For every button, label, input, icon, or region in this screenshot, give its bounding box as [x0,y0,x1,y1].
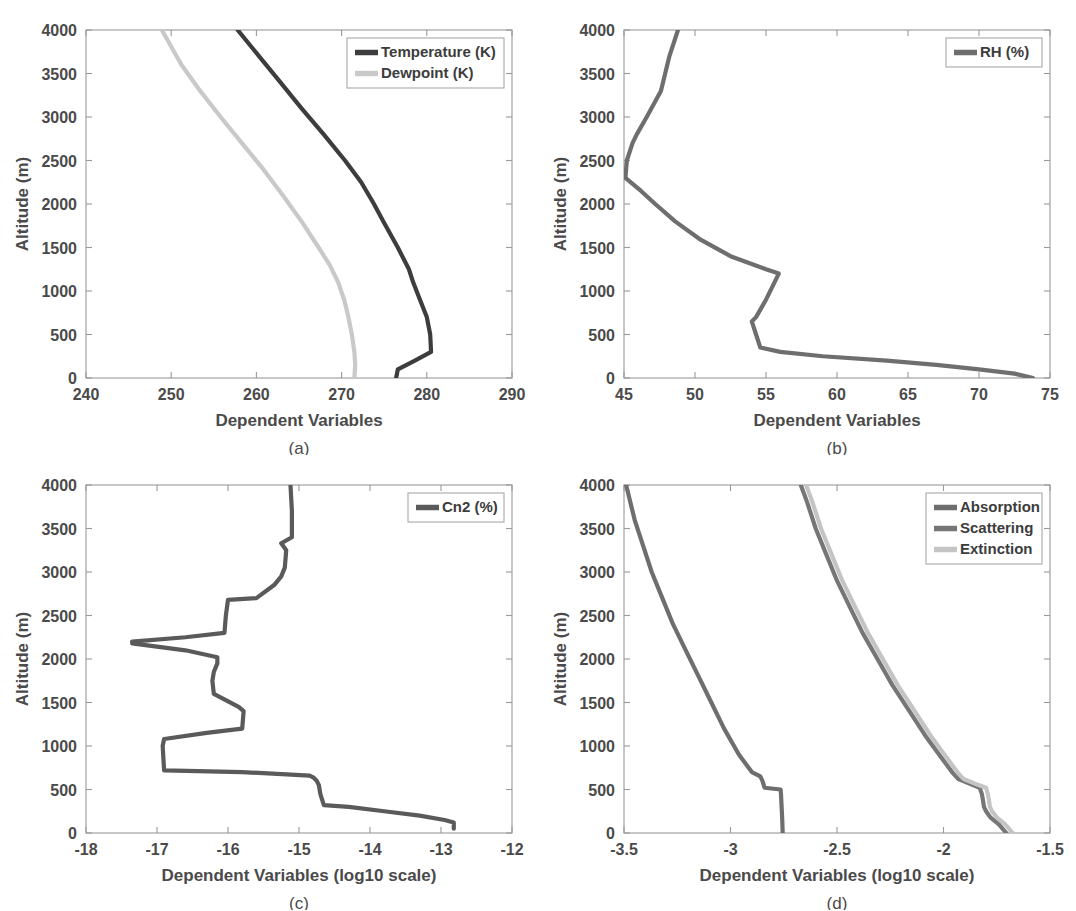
y-tick-label: 2500 [41,153,77,170]
series-line [626,485,783,833]
x-tick-label: 65 [899,386,917,403]
x-tick-label: -2.5 [823,841,851,858]
y-tick-label: 4000 [41,477,77,494]
plot-frame [624,30,1050,378]
legend-label: Temperature (K) [381,43,496,60]
y-tick-label: 1500 [579,240,615,257]
panel-b-plot: 0500100015002000250030003500400045505560… [538,0,1076,455]
x-tick-label: -15 [287,841,310,858]
panel-a-plot: 0500100015002000250030003500400024025026… [0,0,538,455]
series-group [625,30,1033,378]
panel-c-plot: 05001000150020002500300035004000-18-17-1… [0,455,538,910]
y-tick-label: 1000 [579,738,615,755]
x-tick-label: 60 [828,386,846,403]
plot-frame [86,485,512,833]
x-axis-title: Dependent Variables [753,411,920,430]
panel-caption: (d) [827,894,848,910]
x-tick-label: -1.5 [1036,841,1064,858]
y-tick-label: 0 [606,825,615,842]
y-tick-label: 3000 [579,109,615,126]
y-tick-label: 2000 [41,196,77,213]
y-axis-title: Altitude (m) [551,612,570,706]
figure-atmospheric-profiles: 0500100015002000250030003500400024025026… [0,0,1076,911]
x-axis-title: Dependent Variables (log10 scale) [700,866,975,885]
series-line [162,30,355,378]
y-tick-label: 3500 [579,521,615,538]
x-tick-label: 240 [73,386,100,403]
x-tick-label: 50 [686,386,704,403]
x-tick-label: 70 [970,386,988,403]
x-tick-label: 55 [757,386,775,403]
legend-label: RH (%) [980,43,1029,60]
y-tick-label: 4000 [579,22,615,39]
y-tick-label: 1500 [579,695,615,712]
y-tick-label: 2500 [579,608,615,625]
y-tick-label: 500 [50,327,77,344]
legend-label: Cn2 (%) [442,498,498,515]
legend-label: Extinction [960,540,1033,557]
y-tick-label: 500 [588,327,615,344]
y-tick-label: 500 [50,782,77,799]
series-group [132,485,454,829]
panel-a: 0500100015002000250030003500400024025026… [0,0,538,455]
x-axis-title: Dependent Variables [215,411,382,430]
y-tick-label: 0 [68,370,77,387]
y-axis-title: Altitude (m) [13,612,32,706]
y-tick-label: 1000 [579,283,615,300]
y-tick-label: 3500 [41,66,77,83]
panel-caption: (b) [827,439,848,455]
panel-d-plot: 05001000150020002500300035004000-3.5-3-2… [538,455,1076,910]
x-tick-label: 290 [499,386,526,403]
legend-label: Dewpoint (K) [381,64,473,81]
y-tick-label: 2000 [579,651,615,668]
y-tick-label: 1500 [41,695,77,712]
legend-label: Scattering [960,519,1033,536]
x-tick-label: 280 [413,386,440,403]
y-tick-label: 3500 [579,66,615,83]
x-tick-label: 250 [158,386,185,403]
x-tick-label: -3 [723,841,737,858]
panel-caption: (c) [289,894,309,910]
y-tick-label: 3000 [41,564,77,581]
series-line [625,30,1033,378]
y-tick-label: 1500 [41,240,77,257]
y-tick-label: 3500 [41,521,77,538]
panel-caption: (a) [289,439,310,455]
x-tick-label: -12 [500,841,523,858]
x-tick-label: 270 [328,386,355,403]
y-tick-label: 2000 [579,196,615,213]
y-tick-label: 4000 [41,22,77,39]
x-axis-title: Dependent Variables (log10 scale) [162,866,437,885]
x-tick-label: 75 [1041,386,1059,403]
y-tick-label: 4000 [579,477,615,494]
x-tick-label: -17 [145,841,168,858]
x-tick-label: -16 [216,841,239,858]
panel-d: 05001000150020002500300035004000-3.5-3-2… [538,455,1076,910]
y-tick-label: 3000 [41,109,77,126]
x-tick-label: -13 [429,841,452,858]
y-tick-label: 1000 [41,738,77,755]
x-tick-label: -18 [74,841,97,858]
x-tick-label: -3.5 [610,841,638,858]
y-tick-label: 0 [606,370,615,387]
x-tick-label: 260 [243,386,270,403]
x-tick-label: 45 [615,386,633,403]
y-tick-label: 2000 [41,651,77,668]
x-tick-label: -14 [358,841,381,858]
x-tick-label: -2 [936,841,950,858]
y-tick-label: 0 [68,825,77,842]
y-axis-title: Altitude (m) [13,157,32,251]
y-tick-label: 2500 [579,153,615,170]
panel-b: 0500100015002000250030003500400045505560… [538,0,1076,455]
y-tick-label: 2500 [41,608,77,625]
series-line [132,485,454,829]
y-tick-label: 500 [588,782,615,799]
y-tick-label: 3000 [579,564,615,581]
y-tick-label: 1000 [41,283,77,300]
panel-c: 05001000150020002500300035004000-18-17-1… [0,455,538,910]
legend-label: Absorption [960,498,1040,515]
y-axis-title: Altitude (m) [551,157,570,251]
